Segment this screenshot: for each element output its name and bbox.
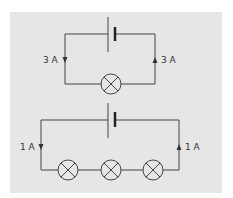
lamp-icon xyxy=(58,160,78,180)
current-arrow-down-icon xyxy=(63,57,68,63)
lamp-icon xyxy=(101,74,121,94)
current-label-right: 3 A xyxy=(161,55,177,65)
battery-icon xyxy=(108,103,115,138)
three-lamp-series-circuit xyxy=(41,103,179,180)
single-lamp-circuit xyxy=(65,17,155,94)
lamp-icon xyxy=(143,160,163,180)
current-arrow-up-icon xyxy=(177,144,182,150)
current-arrow-up-icon xyxy=(153,57,158,63)
battery-icon xyxy=(108,17,115,52)
current-label-right: 1 A xyxy=(185,142,201,152)
current-arrow-down-icon xyxy=(39,144,44,150)
circuit-diagrams: 3 A 3 A xyxy=(0,0,233,198)
lamp-icon xyxy=(101,160,121,180)
current-label-left: 3 A xyxy=(43,55,59,65)
current-label-left: 1 A xyxy=(20,142,36,152)
